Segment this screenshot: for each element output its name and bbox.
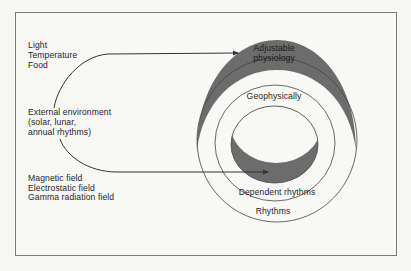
- external-environment-detail-2: annual rhythms): [28, 127, 91, 137]
- geophysically-label: Geophysically: [240, 91, 308, 101]
- factor-food: Food: [28, 60, 48, 70]
- dependent-rhythms-label: Dependent rhythms: [232, 187, 322, 197]
- external-environment-label: External environment: [28, 107, 111, 117]
- physiology-label: physiology: [246, 53, 302, 63]
- factor-temperature: Temperature: [28, 50, 77, 60]
- rhythms-label: Rhythms: [248, 206, 298, 216]
- factor-magnetic-field: Magnetic field: [28, 173, 82, 183]
- external-environment-detail-1: (solar, lunar,: [28, 117, 76, 127]
- factor-light: Light: [28, 40, 47, 50]
- factor-gamma-radiation-field: Gamma radiation field: [28, 192, 114, 202]
- adjustable-label: Adjustable: [246, 43, 302, 53]
